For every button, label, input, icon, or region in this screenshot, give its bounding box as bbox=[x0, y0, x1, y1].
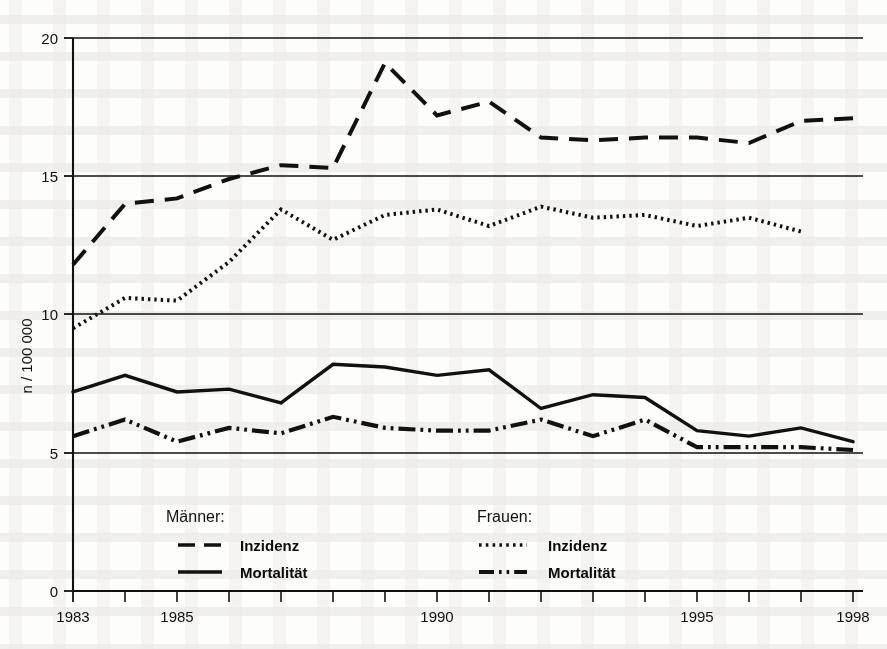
x-tick-label-1983: 1983 bbox=[56, 608, 89, 625]
y-tick-label-10: 10 bbox=[41, 306, 58, 323]
x-tick-label-1998: 1998 bbox=[836, 608, 869, 625]
legend-label-maenner-mortalitaet: Mortalität bbox=[240, 564, 308, 581]
x-tick-label-1985: 1985 bbox=[160, 608, 193, 625]
series-frauen-inzidenz bbox=[73, 207, 801, 329]
legend-label-maenner-inzidenz: Inzidenz bbox=[240, 537, 299, 554]
data-series-layer bbox=[73, 63, 853, 450]
y-tick-label-15: 15 bbox=[41, 168, 58, 185]
x-tick-label-1990: 1990 bbox=[420, 608, 453, 625]
y-tick-label-20: 20 bbox=[41, 30, 58, 47]
y-tick-label-5: 5 bbox=[50, 445, 58, 462]
chart-legend: Männer: Inzidenz Mortalität Frauen: Inzi… bbox=[166, 508, 616, 581]
series-maenner-inzidenz bbox=[73, 63, 853, 265]
chart-figure: 20 15 10 5 0 n / 100 000 1 bbox=[0, 0, 887, 649]
legend-group-maenner: Männer: Inzidenz Mortalität bbox=[166, 508, 308, 581]
legend-heading-frauen: Frauen: bbox=[477, 508, 532, 525]
incidence-mortality-line-chart: 20 15 10 5 0 n / 100 000 1 bbox=[0, 0, 887, 649]
legend-label-frauen-mortalitaet: Mortalität bbox=[548, 564, 616, 581]
y-axis: 20 15 10 5 0 n / 100 000 bbox=[18, 30, 73, 600]
legend-heading-maenner: Männer: bbox=[166, 508, 225, 525]
y-tick-label-0: 0 bbox=[50, 583, 58, 600]
x-axis: 1983 1985 1990 1995 1998 bbox=[56, 591, 869, 625]
x-tick-label-1995: 1995 bbox=[680, 608, 713, 625]
y-axis-title: n / 100 000 bbox=[18, 318, 35, 393]
series-maenner-mortalitaet bbox=[73, 364, 853, 441]
legend-label-frauen-inzidenz: Inzidenz bbox=[548, 537, 607, 554]
legend-group-frauen: Frauen: Inzidenz Mortalität bbox=[477, 508, 616, 581]
